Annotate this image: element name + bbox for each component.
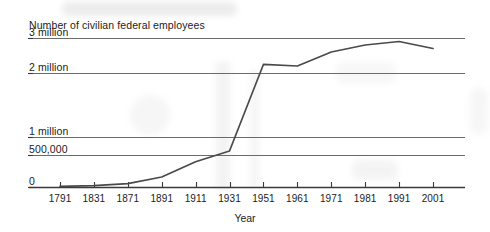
y-axis-tick-label: 1 million <box>29 125 68 137</box>
x-axis-title: Year <box>0 212 490 224</box>
y-axis-tick-label: 0 <box>29 175 35 187</box>
y-axis-tick-label: 2 million <box>29 61 68 73</box>
data-series-line <box>60 42 433 187</box>
chart-figure: Number of civilian federal employees 050… <box>0 0 490 232</box>
y-axis-tick-label: 500,000 <box>29 143 68 155</box>
y-axis-tick-label: 3 million <box>29 26 68 38</box>
x-axis-tick-label: 2001 <box>413 193 453 204</box>
